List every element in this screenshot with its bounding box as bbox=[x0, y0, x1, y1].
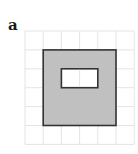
grid-diagram bbox=[0, 0, 138, 154]
